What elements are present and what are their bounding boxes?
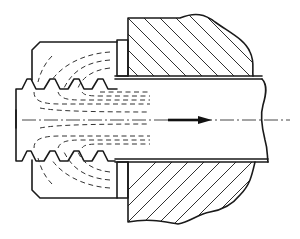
arrow-right-icon bbox=[168, 116, 212, 124]
washer bbox=[117, 40, 128, 198]
wall-bottom bbox=[78, 150, 280, 239]
force-flow-lines-bottom bbox=[34, 124, 150, 188]
diagram-canvas bbox=[0, 0, 300, 239]
cross-section-drawing bbox=[0, 0, 300, 239]
force-flow-lines-top bbox=[34, 52, 150, 112]
